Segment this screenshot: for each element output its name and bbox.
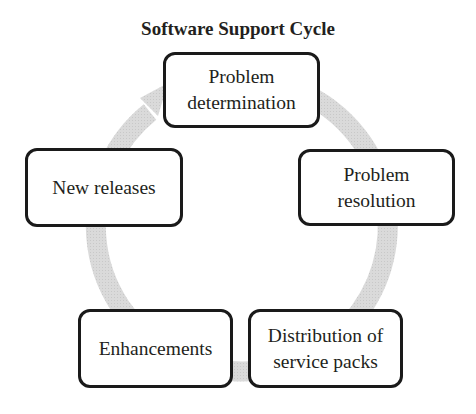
- node-problem-determination: Problem determination: [163, 52, 320, 128]
- node-enhancements: Enhancements: [78, 309, 233, 388]
- node-label: Distribution of service packs: [268, 323, 383, 375]
- node-label: Problem resolution: [338, 162, 416, 214]
- node-label: New releases: [52, 175, 155, 201]
- node-new-releases: New releases: [25, 148, 183, 227]
- node-label: Problem determination: [187, 64, 295, 116]
- node-label: Enhancements: [99, 336, 213, 362]
- node-problem-resolution: Problem resolution: [298, 149, 455, 226]
- node-distribution-of-service-packs: Distribution of service packs: [248, 309, 403, 388]
